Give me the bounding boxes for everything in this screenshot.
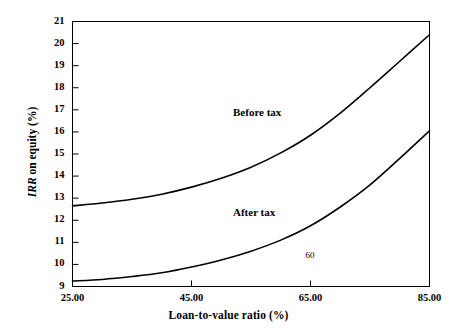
series-label-before-tax: Before tax (233, 106, 281, 118)
x-tick-label: 65.00 (281, 292, 341, 303)
y-axis-title-italic: IRR (26, 177, 38, 197)
x-axis-title: Loan-to-value ratio (%) (0, 309, 457, 321)
chart-figure: IRR on equity (%) Loan-to-value ratio (%… (0, 0, 457, 330)
x-tick-label: 25.00 (43, 292, 103, 303)
y-axis-title-rest: on equity (%) (26, 107, 38, 178)
y-tick-label: 21 (39, 15, 65, 26)
y-tick-label: 12 (39, 213, 65, 224)
y-tick-label: 17 (39, 103, 65, 114)
y-tick-label: 10 (39, 257, 65, 268)
chart-background (0, 0, 457, 330)
annotation-60: 60 (306, 250, 315, 260)
y-tick-label: 20 (39, 37, 65, 48)
y-tick-label: 19 (39, 59, 65, 70)
y-tick-label: 16 (39, 125, 65, 136)
series-label-after-tax: After tax (233, 206, 275, 218)
y-tick-label: 18 (39, 81, 65, 92)
plot-area (0, 0, 457, 330)
y-tick-label: 9 (39, 280, 65, 291)
y-tick-label: 11 (39, 235, 65, 246)
y-tick-label: 14 (39, 169, 65, 180)
x-tick-label: 85.00 (400, 292, 457, 303)
x-tick-label: 45.00 (162, 292, 222, 303)
y-tick-label: 13 (39, 191, 65, 202)
y-axis-title: IRR on equity (%) (26, 107, 38, 197)
y-tick-label: 15 (39, 147, 65, 158)
